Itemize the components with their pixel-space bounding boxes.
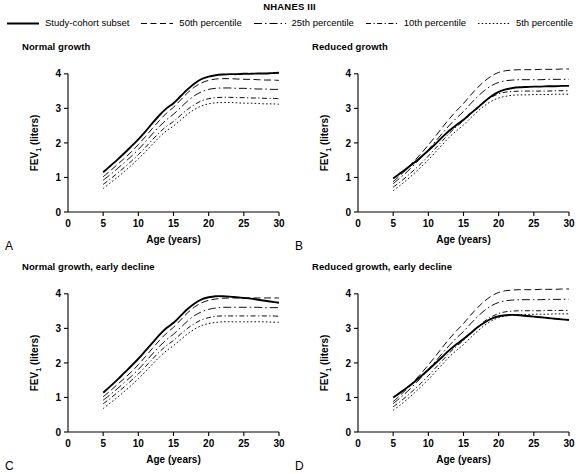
- legend: NHANES III Study-cohort subset 50th perc…: [0, 0, 579, 38]
- svg-text:FEV1 (liters): FEV1 (liters): [319, 115, 332, 172]
- y-tick-label: 3: [345, 323, 351, 334]
- chart-svg: 01234051015202530Age (years)FEV1 (liters…: [0, 52, 289, 250]
- x-tick-label: 25: [238, 438, 250, 449]
- chart-svg: 01234051015202530Age (years)FEV1 (liters…: [0, 272, 289, 470]
- y-tick-label: 3: [345, 103, 351, 114]
- x-tick-label: 20: [493, 438, 505, 449]
- svg-text:FEV1 (liters): FEV1 (liters): [29, 115, 42, 172]
- panel-title: Reduced growth, early decline: [312, 261, 452, 272]
- x-axis-title: Age (years): [146, 454, 200, 465]
- legend-title: NHANES III: [0, 1, 579, 12]
- panel-title: Normal growth, early decline: [22, 261, 155, 272]
- legend-item-50th: 50th percentile: [140, 18, 241, 28]
- y-tick-label: 2: [345, 138, 351, 149]
- x-axis-title: Age (years): [436, 234, 490, 245]
- x-tick-label: 30: [273, 218, 285, 229]
- x-tick-label: 0: [65, 218, 71, 229]
- x-tick-label: 30: [563, 218, 575, 229]
- legend-item-10th: 10th percentile: [365, 18, 466, 28]
- y-tick-label: 3: [55, 323, 61, 334]
- y-tick-label: 1: [345, 172, 351, 183]
- x-tick-label: 0: [355, 438, 361, 449]
- panel-a: Normal growth 01234051015202530Age (year…: [0, 38, 289, 255]
- curve-dotted: [393, 314, 569, 410]
- x-tick-label: 20: [203, 438, 215, 449]
- x-tick-label: 10: [423, 438, 435, 449]
- panel-letter: C: [5, 459, 14, 473]
- x-tick-label: 30: [273, 438, 285, 449]
- x-tick-label: 5: [390, 218, 396, 229]
- x-tick-label: 5: [100, 438, 106, 449]
- curve-dash-dot: [103, 307, 279, 400]
- x-tick-label: 15: [168, 438, 180, 449]
- x-tick-label: 25: [528, 218, 540, 229]
- legend-label: 25th percentile: [292, 18, 354, 28]
- x-tick-label: 15: [458, 218, 470, 229]
- y-tick-label: 4: [345, 68, 351, 79]
- panel-letter: B: [295, 239, 303, 253]
- y-tick-label: 2: [55, 138, 61, 149]
- y-axis-title: FEV1 (liters): [319, 115, 332, 172]
- panel-b: Reduced growth 01234051015202530Age (yea…: [290, 38, 579, 255]
- panel-letter: A: [5, 239, 13, 253]
- legend-label: 50th percentile: [179, 18, 241, 28]
- legend-swatch-dotted-icon: [477, 19, 511, 28]
- curve-dashed: [103, 79, 279, 177]
- legend-swatch-solid-icon: [6, 19, 40, 28]
- y-tick-label: 0: [55, 427, 61, 438]
- y-tick-label: 2: [55, 358, 61, 369]
- x-tick-label: 15: [168, 218, 180, 229]
- y-tick-label: 0: [345, 427, 351, 438]
- x-tick-label: 30: [563, 438, 575, 449]
- x-tick-label: 20: [493, 218, 505, 229]
- y-axis-title: FEV1 (liters): [29, 115, 42, 172]
- curve-dash-dot-dot: [103, 97, 279, 184]
- curve-dotted: [393, 94, 569, 190]
- svg-text:FEV1 (liters): FEV1 (liters): [319, 335, 332, 392]
- plot-area-b: 01234051015202530Age (years)FEV1 (liters…: [290, 52, 579, 250]
- x-tick-label: 10: [423, 218, 435, 229]
- y-tick-label: 4: [55, 288, 61, 299]
- y-tick-label: 0: [55, 207, 61, 218]
- legend-item-5th: 5th percentile: [477, 18, 573, 28]
- panel-title: Normal growth: [22, 41, 90, 52]
- x-tick-label: 0: [65, 438, 71, 449]
- x-tick-label: 25: [238, 218, 250, 229]
- y-tick-label: 1: [55, 172, 61, 183]
- y-axis-title: FEV1 (liters): [319, 335, 332, 392]
- curve-dotted: [103, 322, 279, 409]
- curve-dotted: [103, 102, 279, 188]
- legend-swatch-dash-dot-dot-icon: [365, 19, 399, 28]
- y-axis-title: FEV1 (liters): [29, 335, 42, 392]
- x-tick-label: 0: [355, 218, 361, 229]
- x-tick-label: 15: [458, 438, 470, 449]
- legend-swatch-dashed-icon: [140, 19, 174, 28]
- legend-item-study-cohort: Study-cohort subset: [6, 18, 130, 28]
- y-tick-label: 4: [345, 288, 351, 299]
- plot-area-c: 01234051015202530Age (years)FEV1 (liters…: [0, 272, 289, 470]
- x-tick-label: 10: [133, 438, 145, 449]
- svg-text:FEV1 (liters): FEV1 (liters): [29, 335, 42, 392]
- y-tick-label: 0: [345, 207, 351, 218]
- x-axis-title: Age (years): [146, 234, 200, 245]
- y-tick-label: 3: [55, 103, 61, 114]
- y-tick-label: 1: [345, 392, 351, 403]
- legend-swatch-dash-dot-icon: [253, 19, 287, 28]
- x-tick-label: 10: [133, 218, 145, 229]
- plot-area-a: 01234051015202530Age (years)FEV1 (liters…: [0, 52, 289, 250]
- x-tick-label: 25: [528, 438, 540, 449]
- panel-c: Normal growth, early decline 01234051015…: [0, 258, 289, 474]
- panel-title: Reduced growth: [312, 41, 388, 52]
- legend-label: 5th percentile: [516, 18, 573, 28]
- x-tick-label: 20: [203, 218, 215, 229]
- curve-dash-dot-dot: [103, 316, 279, 404]
- chart-svg: 01234051015202530Age (years)FEV1 (liters…: [290, 272, 579, 470]
- y-tick-label: 1: [55, 392, 61, 403]
- x-tick-label: 5: [100, 218, 106, 229]
- legend-item-25th: 25th percentile: [253, 18, 354, 28]
- legend-items: Study-cohort subset 50th percentile 25th…: [0, 15, 579, 31]
- x-axis-title: Age (years): [436, 454, 490, 465]
- y-tick-label: 2: [345, 358, 351, 369]
- panel-d: Reduced growth, early decline 0123405101…: [290, 258, 579, 474]
- y-tick-label: 4: [55, 68, 61, 79]
